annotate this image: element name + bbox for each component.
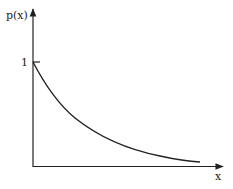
exponential-decay-chart: p(x) 1 x [0,0,233,189]
y-tick-label-1: 1 [21,56,28,69]
decay-curve [33,62,200,162]
x-axis-label: x [215,170,222,183]
y-axis-label: p(x) [6,9,28,22]
